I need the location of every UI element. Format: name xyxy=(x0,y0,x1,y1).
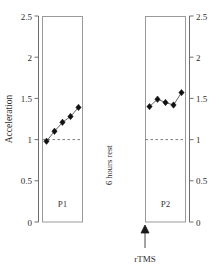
left-tick-label-1: 1 xyxy=(28,135,33,145)
right-tick-label-0: 0 xyxy=(196,218,201,228)
right-tick-label-1.5: 1.5 xyxy=(196,94,208,104)
left-tick-label-2.5: 2.5 xyxy=(21,12,33,22)
panel-p1: P1 xyxy=(43,17,83,223)
panel-p2: P2 xyxy=(146,17,186,223)
rtms-label: rTMS xyxy=(134,254,156,264)
left-tick-label-1.5: 1.5 xyxy=(21,94,33,104)
right-tick-label-2: 2 xyxy=(196,53,201,63)
left-tick-label-0.5: 0.5 xyxy=(21,176,33,186)
rtms-annotation: rTMS xyxy=(134,225,156,264)
panel-p2-point-3 xyxy=(163,99,168,105)
right-tick-label-0.5: 0.5 xyxy=(196,176,208,186)
chart-canvas: 2.5 2 1.5 1 0.5 0 Acceleration 2.5 2 1.5… xyxy=(0,0,219,266)
rest-interval-label: 6 hours rest xyxy=(104,145,114,185)
rtms-arrow-head-icon xyxy=(141,225,149,233)
panel-p1-label: P1 xyxy=(58,199,68,209)
right-tick-label-2.5: 2.5 xyxy=(196,12,208,22)
left-axis: 2.5 2 1.5 1 0.5 0 Acceleration xyxy=(4,12,39,228)
acceleration-chart-figure: 2.5 2 1.5 1 0.5 0 Acceleration 2.5 2 1.5… xyxy=(0,0,219,266)
left-tick-label-0: 0 xyxy=(28,218,33,228)
right-axis: 2.5 2 1.5 1 0.5 0 xyxy=(190,12,208,228)
y-axis-title: Acceleration xyxy=(4,94,14,143)
panel-p2-label: P2 xyxy=(161,199,171,209)
left-tick-label-2: 2 xyxy=(28,53,33,63)
panel-p2-box xyxy=(146,17,186,223)
right-tick-label-1: 1 xyxy=(196,135,201,145)
panel-p2-markers xyxy=(147,89,184,109)
